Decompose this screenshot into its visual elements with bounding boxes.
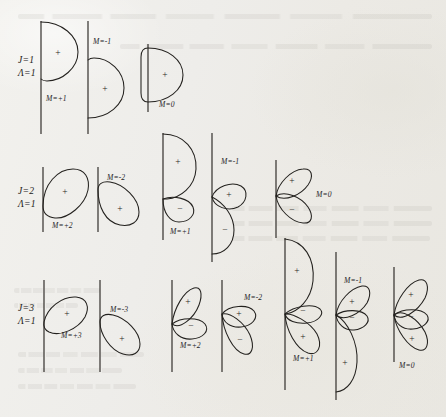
panel-j3-m-plus3-mlabel: M=+3 bbox=[60, 331, 82, 340]
panel-j1-m-plus1-sign-positive: + bbox=[55, 48, 60, 58]
panel-j2-m-plus1: + − M=+1 bbox=[163, 133, 196, 240]
panel-j3-m-minus3-sign-positive: + bbox=[119, 334, 124, 344]
panel-j1-m-plus1-mlabel: M=+1 bbox=[45, 94, 67, 103]
panel-j1-m-0-mlabel: M=0 bbox=[158, 100, 175, 109]
panel-j3-m-plus2-sign-negative: − bbox=[188, 321, 193, 331]
panel-j1-m-0: + M=0 bbox=[141, 44, 183, 112]
row-j3-label-line2: Λ=1 bbox=[17, 315, 36, 326]
panel-j2-m-plus2-sign-positive: + bbox=[62, 187, 67, 197]
row-j2-label-line2: Λ=1 bbox=[17, 198, 36, 209]
row-j3-label-line1: J=3 bbox=[18, 302, 34, 313]
row-j1: J=1 Λ=1 + M=+1 + M=-1 + M=0 bbox=[17, 21, 183, 134]
panel-j2-m-minus2-sign-positive: + bbox=[117, 204, 122, 214]
panel-j3-m-plus2: + − M=+2 bbox=[172, 280, 207, 372]
panel-j3-m-minus1-sign-negative: − bbox=[349, 313, 354, 323]
panel-j2-m-0: + − M=0 bbox=[276, 160, 332, 238]
panel-j3-m-minus2-mlabel: M=-2 bbox=[243, 293, 262, 302]
panel-j1-m-0-sign-positive: + bbox=[162, 70, 167, 80]
panel-j2-m-plus1-sign-negative: − bbox=[177, 204, 182, 214]
panel-j3-m-0-mlabel: M=0 bbox=[398, 361, 415, 370]
panel-j2-m-plus1-sign-positive: + bbox=[175, 157, 180, 167]
panel-j3-m-minus1-sign-positive-top: + bbox=[349, 297, 354, 307]
row-j1-label-line2: Λ=1 bbox=[17, 67, 36, 78]
panel-j3-m-plus2-mlabel: M=+2 bbox=[179, 341, 201, 350]
panel-j3-m-minus2: + − M=-2 bbox=[222, 280, 262, 372]
panel-j3-m-0-sign-positive-top: + bbox=[408, 290, 413, 300]
panel-j1-m-minus1-sign-positive: + bbox=[102, 84, 107, 94]
panel-j3-m-plus1-sign-negative: − bbox=[300, 306, 305, 316]
panel-j2-m-0-sign-negative: − bbox=[289, 205, 294, 215]
panel-j2-m-plus2: + M=+2 bbox=[43, 167, 88, 232]
panel-j1-m-minus1-mlabel: M=-1 bbox=[92, 37, 111, 46]
panel-j3-m-minus2-sign-positive: + bbox=[236, 309, 241, 319]
panel-j2-m-minus1-mlabel: M=-1 bbox=[220, 157, 239, 166]
panel-j2-m-0-mlabel: M=0 bbox=[315, 190, 332, 199]
panel-j2-m-0-sign-positive: + bbox=[289, 176, 294, 186]
panel-j3-m-minus3: + M=-3 bbox=[100, 280, 140, 372]
panel-j1-m-minus1: + M=-1 bbox=[88, 21, 124, 134]
panel-j2-m-minus2: + M=-2 bbox=[98, 167, 139, 232]
panel-j2-m-minus1-sign-positive: + bbox=[226, 190, 231, 200]
panel-j3-m-plus2-sign-positive: + bbox=[185, 297, 190, 307]
panel-j1-m-plus1: + M=+1 bbox=[41, 21, 78, 134]
panel-j2-m-plus1-mlabel: M=+1 bbox=[169, 227, 191, 236]
panel-j3-m-0: + − + M=0 bbox=[394, 267, 428, 370]
panel-j2-m-minus1-sign-negative: − bbox=[222, 225, 227, 235]
panel-j3-m-0-sign-positive-bottom: + bbox=[409, 334, 414, 344]
panel-j3-m-minus3-mlabel: M=-3 bbox=[109, 305, 128, 314]
panel-j3-m-minus1: + − + M=-1 bbox=[336, 252, 370, 400]
row-j2-label-line1: J=2 bbox=[18, 185, 34, 196]
panel-j2-m-plus2-mlabel: M=+2 bbox=[51, 221, 73, 230]
row-j1-label-line1: J=1 bbox=[18, 54, 34, 65]
panel-j3-m-plus3-sign-positive: + bbox=[64, 309, 69, 319]
panel-j3-m-plus1-sign-positive-bottom: + bbox=[300, 332, 305, 342]
panel-j3-m-minus1-lobe-positive-bottom bbox=[336, 315, 357, 392]
panel-j3-m-minus2-lobe-negative bbox=[222, 314, 252, 355]
panel-j3-m-minus2-sign-negative: − bbox=[237, 335, 242, 345]
lobe-figure: J=1 Λ=1 + M=+1 + M=-1 + M=0 J=2 Λ=1 bbox=[0, 0, 446, 417]
panel-j3-m-minus1-sign-positive-bottom: + bbox=[342, 358, 347, 368]
figure-svg: J=1 Λ=1 + M=+1 + M=-1 + M=0 J=2 Λ=1 bbox=[0, 0, 446, 417]
panel-j3-m-plus1: + − + M=+1 bbox=[285, 238, 322, 390]
panel-j3-m-0-sign-negative: − bbox=[408, 312, 413, 322]
panel-j3-m-plus1-lobe-positive-top bbox=[285, 239, 313, 314]
panel-j3-m-plus1-sign-positive-top: + bbox=[294, 266, 299, 276]
row-j3: J=3 Λ=1 + M=+3 + M=-3 + − M=+2 bbox=[17, 238, 428, 400]
panel-j2-m-minus1: + − M=-1 bbox=[212, 133, 246, 262]
panel-j2-m-minus2-mlabel: M=-2 bbox=[106, 173, 125, 182]
panel-j3-m-minus1-mlabel: M=-1 bbox=[343, 276, 362, 285]
panel-j3-m-plus1-mlabel: M=+1 bbox=[292, 354, 314, 363]
panel-j3-m-plus3: + M=+3 bbox=[44, 280, 88, 372]
